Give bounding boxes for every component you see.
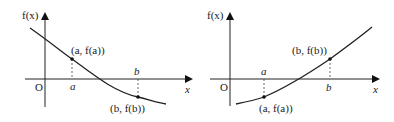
point-a-label: (a, f(a)) <box>71 44 105 57</box>
tick-a-label: a <box>261 65 267 77</box>
point-a <box>70 57 74 61</box>
curve-increasing <box>236 27 372 104</box>
point-a-label: (a, f(a)) <box>259 102 293 115</box>
point-a <box>262 95 266 99</box>
point-b-label: (b, f(b)) <box>110 102 145 115</box>
x-axis-arrow-icon <box>372 75 380 83</box>
origin-label: O <box>35 81 43 93</box>
y-axis-arrow-icon <box>226 12 234 20</box>
curve-decreasing <box>30 28 166 104</box>
tick-b-label: b <box>134 65 140 77</box>
x-axis-label: x <box>372 83 378 95</box>
x-axis-arrow-icon <box>185 75 193 83</box>
tick-b-label: b <box>326 81 332 93</box>
right-graph: f(x) O a b x (a, f(a)) (b, f(b)) <box>207 9 380 115</box>
point-b <box>136 95 140 99</box>
y-axis-arrow-icon <box>41 12 49 20</box>
origin-label: O <box>220 81 228 93</box>
point-b <box>328 57 332 61</box>
y-axis-label: f(x) <box>22 9 39 22</box>
left-graph: f(x) O a b x (a, f(a)) (b, f(b)) <box>22 9 193 115</box>
point-b-label: (b, f(b)) <box>292 44 327 57</box>
diagram: f(x) O a b x (a, f(a)) (b, f(b)) f(x) O … <box>0 0 394 122</box>
y-axis-label: f(x) <box>207 9 224 22</box>
x-axis-label: x <box>184 83 190 95</box>
tick-a-label: a <box>70 80 76 92</box>
